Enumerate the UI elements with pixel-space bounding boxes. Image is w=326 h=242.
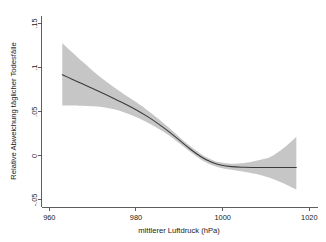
x-axis-title: mittlerer Luftdruck (hPa) <box>138 226 220 235</box>
x-tick-label: 960 <box>43 213 55 222</box>
y-tick-label: 0 <box>30 154 39 158</box>
y-tick-label: .15 <box>30 18 39 28</box>
x-axis-ticks: 96098010001020 <box>43 208 317 222</box>
x-tick-label: 1020 <box>301 213 317 222</box>
y-axis-title: Relative Abweichung täglicher Todesfälle <box>9 42 18 179</box>
x-tick-label: 1000 <box>214 213 230 222</box>
y-tick-label: .1 <box>30 65 39 71</box>
y-tick-label: -.05 <box>30 194 39 207</box>
y-tick-label: .05 <box>30 107 39 117</box>
y-axis-ticks: -.050.05.1.15 <box>30 18 41 206</box>
chart-figure: -.050.05.1.15 96098010001020 mittlerer L… <box>0 0 326 242</box>
x-tick-label: 980 <box>130 213 142 222</box>
scatter-plot-canvas: -.050.05.1.15 96098010001020 mittlerer L… <box>0 0 326 242</box>
